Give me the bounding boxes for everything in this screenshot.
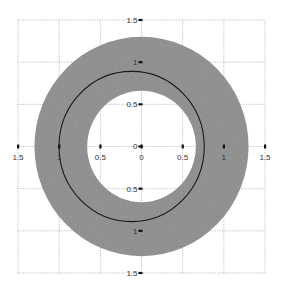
y-tick-mark bbox=[139, 61, 143, 63]
ring-plot: 1.510.500.511.5 1.510.500.511.5 bbox=[0, 0, 282, 294]
x-tick-label: 1.5 bbox=[12, 153, 24, 162]
y-tick-label: 1.5 bbox=[126, 16, 138, 25]
y-tick-mark bbox=[139, 103, 143, 105]
x-tick-mark bbox=[17, 145, 19, 149]
y-tick-mark bbox=[139, 19, 143, 21]
x-tick-label: 1 bbox=[222, 153, 227, 162]
x-tick-mark bbox=[58, 145, 60, 149]
x-tick-mark bbox=[264, 145, 266, 149]
x-tick-mark bbox=[182, 145, 184, 149]
x-tick-label: 0.5 bbox=[95, 153, 107, 162]
x-tick-label: 0.5 bbox=[177, 153, 189, 162]
y-tick-label: 0 bbox=[133, 142, 138, 151]
x-tick-mark bbox=[223, 145, 225, 149]
x-tick-mark bbox=[99, 145, 101, 149]
y-tick-mark bbox=[139, 188, 143, 190]
y-tick-label: 1 bbox=[133, 227, 138, 236]
y-tick-mark bbox=[139, 145, 143, 147]
y-tick-label: 1 bbox=[133, 58, 138, 67]
y-tick-mark bbox=[139, 272, 143, 274]
x-tick-label: 1 bbox=[57, 153, 62, 162]
x-tick-label: 0 bbox=[139, 153, 144, 162]
y-tick-mark bbox=[139, 230, 143, 232]
y-tick-label: 1.5 bbox=[126, 269, 138, 278]
y-tick-label: 0.5 bbox=[126, 185, 138, 194]
y-tick-label: 0.5 bbox=[126, 100, 138, 109]
x-tick-label: 1.5 bbox=[259, 153, 271, 162]
